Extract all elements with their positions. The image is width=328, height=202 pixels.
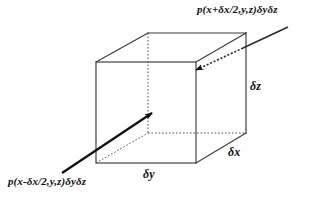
cube-visible-edges [96, 33, 246, 163]
hidden-edge-bottom-left-receding [96, 133, 148, 163]
cube-hidden-edges [96, 33, 246, 163]
force-arrow-left [62, 113, 152, 173]
force-arrow-right-shaft-inner [196, 48, 243, 70]
cube-edge-top-left-receding [96, 33, 148, 62]
label-pressure-force-plus: p(x+δx/2,y,z)δyδz [197, 4, 278, 15]
force-arrow-right-shaft-outer [243, 27, 288, 48]
force-arrow-left-shaft [62, 113, 152, 173]
cube-front-face [96, 62, 196, 163]
label-pressure-force-minus: p(x-δx/2,y,z)δyδz [8, 176, 86, 187]
cube-diagram-canvas [0, 0, 328, 202]
pressure-element-figure: p(x+δx/2,y,z)δyδz p(x-δx/2,y,z)δyδz δz δ… [0, 0, 328, 202]
label-dimension-dz: δz [250, 80, 261, 92]
label-dimension-dy: δy [143, 168, 155, 180]
label-dimension-dx: δx [228, 146, 240, 158]
